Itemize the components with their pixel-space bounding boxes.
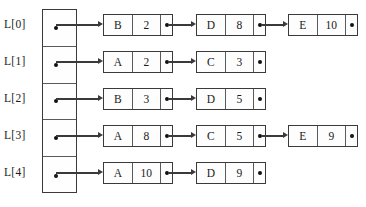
array-to-node-connector	[56, 135, 98, 136]
array-cell-2	[43, 84, 76, 121]
node-pointer-dot-icon	[350, 134, 354, 138]
node-key-cell: D	[197, 89, 226, 109]
node-value-cell: 3	[226, 52, 255, 72]
array-cell-4	[43, 157, 76, 194]
node-key-cell: A	[104, 163, 133, 183]
row-label-2: L[2]	[4, 92, 40, 104]
list-node: B2	[103, 14, 173, 36]
node-key-cell: D	[197, 163, 226, 183]
arrowhead-icon	[191, 169, 196, 175]
row-label-0: L[0]	[4, 18, 40, 30]
array-pointer-dot-icon	[54, 26, 58, 30]
node-to-node-connector	[168, 135, 192, 136]
node-to-node-connector	[168, 172, 192, 173]
node-key-cell: D	[197, 15, 226, 35]
node-key-cell: C	[197, 52, 226, 72]
list-node: D9	[196, 162, 266, 184]
node-key-cell: A	[104, 126, 133, 146]
node-key-cell: A	[104, 52, 133, 72]
node-pointer-cell	[254, 163, 265, 183]
array-pointer-dot-icon	[54, 63, 58, 67]
array-column	[42, 9, 77, 193]
node-key-cell: B	[104, 15, 133, 35]
node-value-cell: 2	[133, 52, 162, 72]
arrowhead-icon	[283, 21, 288, 27]
node-value-cell: 8	[226, 15, 255, 35]
list-node: E10	[288, 14, 358, 36]
node-value-cell: 10	[133, 163, 162, 183]
node-value-cell: 9	[226, 163, 255, 183]
node-key-cell: E	[289, 15, 318, 35]
node-pointer-cell	[346, 126, 357, 146]
arrowhead-icon	[191, 21, 196, 27]
array-to-node-connector	[56, 98, 98, 99]
node-value-cell: 8	[133, 126, 162, 146]
node-to-node-connector	[168, 61, 192, 62]
row-label-1: L[1]	[4, 55, 40, 67]
array-cell-1	[43, 47, 76, 84]
node-key-cell: B	[104, 89, 133, 109]
arrowhead-icon	[191, 58, 196, 64]
node-to-node-connector	[261, 24, 284, 25]
array-to-node-connector	[56, 172, 98, 173]
array-to-node-connector	[56, 61, 98, 62]
list-node: B3	[103, 88, 173, 110]
list-node: A2	[103, 51, 173, 73]
node-pointer-dot-icon	[258, 171, 262, 175]
array-to-node-connector	[56, 24, 98, 25]
node-value-cell: 9	[318, 126, 347, 146]
list-node: E9	[288, 125, 358, 147]
node-value-cell: 5	[226, 126, 255, 146]
array-pointer-dot-icon	[54, 99, 58, 103]
list-node: A10	[103, 162, 173, 184]
list-node: D5	[196, 88, 266, 110]
node-key-cell: E	[289, 126, 318, 146]
arrowhead-icon	[191, 132, 196, 138]
array-cell-0	[43, 10, 76, 47]
array-pointer-dot-icon	[54, 136, 58, 140]
node-value-cell: 2	[133, 15, 162, 35]
node-pointer-cell	[346, 15, 357, 35]
row-label-3: L[3]	[4, 129, 40, 141]
list-node: D8	[196, 14, 266, 36]
row-label-4: L[4]	[4, 166, 40, 178]
arrowhead-icon	[98, 21, 103, 27]
arrowhead-icon	[98, 58, 103, 64]
node-to-node-connector	[168, 98, 192, 99]
arrowhead-icon	[191, 95, 196, 101]
array-cell-3	[43, 120, 76, 157]
node-key-cell: C	[197, 126, 226, 146]
node-pointer-dot-icon	[258, 97, 262, 101]
node-value-cell: 5	[226, 89, 255, 109]
list-node: A8	[103, 125, 173, 147]
arrowhead-icon	[98, 95, 103, 101]
node-value-cell: 3	[133, 89, 162, 109]
node-value-cell: 10	[318, 15, 347, 35]
array-of-linked-lists-diagram: L[0] L[1] L[2] L[3] L[4] B2D8E10A2C3B3D5…	[0, 0, 366, 207]
arrowhead-icon	[98, 132, 103, 138]
node-pointer-cell	[254, 89, 265, 109]
arrowhead-icon	[98, 169, 103, 175]
array-pointer-dot-icon	[54, 174, 58, 178]
list-node: C5	[196, 125, 266, 147]
node-pointer-dot-icon	[350, 23, 354, 27]
arrowhead-icon	[283, 132, 288, 138]
list-node: C3	[196, 51, 266, 73]
node-to-node-connector	[261, 135, 284, 136]
node-pointer-cell	[254, 52, 265, 72]
node-pointer-dot-icon	[258, 60, 262, 64]
node-to-node-connector	[168, 24, 192, 25]
